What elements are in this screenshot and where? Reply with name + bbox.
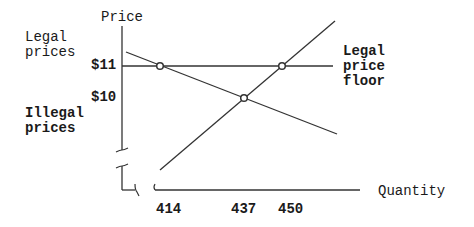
x-axis-break-icon (154, 184, 155, 190)
y-axis-label: Price (101, 10, 143, 25)
price-tick-10: $10 (91, 90, 116, 105)
legal-prices-label-line1: Legal (25, 30, 67, 45)
x-axis-label: Quantity (378, 184, 445, 199)
quantity-tick-414: 414 (156, 202, 181, 217)
supply-at-floor-point (279, 63, 286, 70)
illegal-prices-label-line2: prices (25, 121, 75, 136)
quantity-tick-450: 450 (278, 202, 303, 217)
price-floor-label-line3: floor (343, 74, 385, 89)
x-axis-break-icon (135, 184, 139, 196)
legal-prices-label-line2: prices (25, 45, 75, 60)
price-floor-label-line1: Legal (343, 44, 385, 59)
price-tick-11: $11 (91, 58, 116, 73)
price-floor-diagram: Price Legal prices $11 $10 Illegal price… (0, 0, 474, 227)
equilibrium-point (241, 95, 248, 102)
illegal-prices-label-line1: Illegal (25, 106, 84, 121)
supply-line (160, 21, 335, 170)
quantity-tick-437: 437 (231, 202, 256, 217)
price-floor-label-line2: price (343, 59, 385, 74)
demand-at-floor-point (157, 63, 164, 70)
